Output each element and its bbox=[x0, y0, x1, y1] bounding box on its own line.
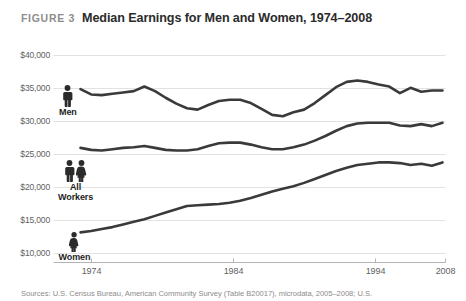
data-series-group bbox=[81, 81, 443, 233]
series-label: All Workers bbox=[58, 183, 93, 202]
x-axis-tick-label: 2008 bbox=[423, 266, 466, 276]
figure-source-note: Sources: U.S. Census Bureau, American Co… bbox=[21, 289, 372, 298]
x-axis-tick-label: 1974 bbox=[69, 266, 115, 276]
female-figure-icon bbox=[76, 160, 87, 182]
y-axis-tick-label: $35,000 bbox=[4, 83, 50, 93]
series-line-all-workers bbox=[81, 123, 443, 151]
x-axis-tick-label: 1984 bbox=[211, 266, 257, 276]
series-annotation-men: Men bbox=[59, 85, 77, 118]
series-label: Men bbox=[59, 108, 77, 118]
male-figure-icon bbox=[62, 85, 73, 107]
male-figure-icon bbox=[64, 160, 75, 182]
x-axis-tick-label: 1994 bbox=[353, 266, 399, 276]
series-line-men bbox=[81, 81, 443, 117]
y-axis-tick-label: $30,000 bbox=[4, 116, 50, 126]
female-figure-icon bbox=[69, 232, 79, 252]
y-axis-tick-label: $25,000 bbox=[4, 149, 50, 159]
series-annotation-women: Women bbox=[59, 232, 91, 263]
female-figure-icon bbox=[69, 232, 79, 252]
y-axis-tick-label: $40,000 bbox=[4, 50, 50, 60]
male-female-figure-icon bbox=[64, 160, 87, 182]
y-axis-tick-label: $10,000 bbox=[4, 248, 50, 258]
series-label: Women bbox=[59, 253, 91, 263]
series-line-women bbox=[81, 162, 443, 232]
y-axis-tick-label: $15,000 bbox=[4, 215, 50, 225]
male-figure-icon bbox=[62, 85, 73, 107]
series-annotation-all-workers: All Workers bbox=[58, 160, 93, 202]
y-axis-tick-label: $20,000 bbox=[4, 182, 50, 192]
